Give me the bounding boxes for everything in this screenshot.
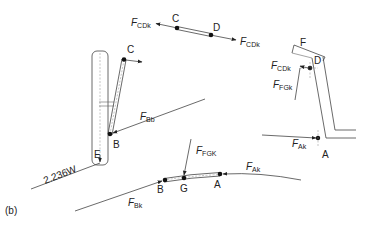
label-fcdk-left: FCDk	[131, 17, 151, 29]
label-e-frame: E	[94, 149, 101, 160]
label-fak-bottom: FAk	[246, 161, 261, 173]
force-arrow-fak-bottom	[223, 174, 301, 180]
label-a-right: A	[322, 149, 329, 160]
label-fbb: FBb	[140, 111, 155, 123]
label-ffgk: FFGK	[196, 145, 217, 157]
label-2236w: 2.236W	[42, 163, 79, 186]
force-arrow-fbk	[75, 181, 162, 211]
pin-g-bottom	[182, 176, 187, 181]
label-fcdk-right-member: FCDk	[271, 60, 291, 72]
free-body-diagram: C D FCDk FCDk C B E FBb 2.236W	[0, 0, 369, 227]
left-frame: C B E FBb 2.236W	[31, 44, 205, 189]
label-g-bottom: G	[180, 183, 188, 194]
label-fbk: FBk	[128, 197, 143, 209]
pin-b-frame	[108, 132, 113, 137]
pin-b-bottom	[163, 178, 168, 183]
top-link-cd: C D FCDk FCDk	[131, 13, 260, 48]
label-d-top: D	[213, 22, 220, 33]
label-b-bottom: B	[157, 184, 164, 195]
force-arrow-fcdk-left	[156, 24, 175, 28]
right-member: F D FCDk FFGk FAk A	[262, 37, 356, 160]
label-f-right: F	[300, 37, 306, 48]
label-fak-right: FAk	[292, 138, 307, 150]
label-c-top: C	[172, 13, 179, 24]
label-ffgk-right: FFGk	[273, 79, 293, 91]
label-d-right: D	[314, 55, 321, 66]
pin-a-bottom	[218, 172, 223, 177]
pin-c-frame	[122, 57, 127, 62]
pin-c-top	[175, 26, 180, 31]
panel-label: (b)	[5, 205, 17, 216]
label-b-frame: B	[113, 139, 120, 150]
label-c-frame: C	[127, 44, 134, 55]
pin-d-top	[209, 33, 214, 38]
force-arrow-ffgk	[184, 139, 191, 175]
force-line-ffgk-right	[295, 68, 300, 100]
force-arrow-fbb	[113, 99, 205, 133]
force-arrow-fcdk-right-member	[300, 66, 308, 68]
force-arrow-c-frame	[126, 60, 142, 62]
label-a-bottom: A	[214, 179, 221, 190]
force-arrow-fcdk-right	[213, 36, 236, 41]
label-fcdk-right: FCDk	[240, 36, 260, 48]
bottom-link-bga: B G A FFGK FAk FBk	[75, 139, 301, 211]
force-arrow-fak-right	[262, 135, 316, 138]
